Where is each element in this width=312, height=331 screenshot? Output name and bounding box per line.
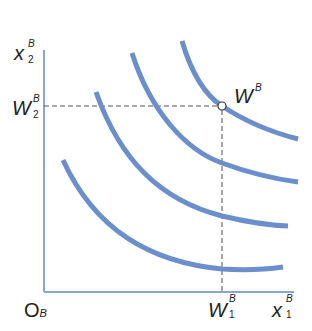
y-tick-label-main: W: [12, 97, 31, 119]
origin-label: OB: [24, 300, 47, 320]
indifference-curve-2: [96, 92, 288, 226]
x-axis-label-sup: B: [286, 294, 293, 304]
endowment-point-label: W B: [234, 86, 253, 106]
x-axis-label-main: x: [272, 299, 282, 321]
origin-label-sub: B: [40, 307, 47, 319]
y-axis-label: x B 2: [14, 43, 24, 63]
y-tick-label-sup: B: [33, 94, 40, 104]
x-tick-label: W B 1: [208, 300, 227, 320]
origin-label-main: O: [24, 299, 40, 321]
endowment-label-main: W: [234, 85, 253, 107]
indifference-curve-diagram: x B 2 W B 2 W B OB W B 1 x B 1: [0, 0, 312, 331]
x-axis-label-sub: 1: [286, 310, 292, 320]
diagram-canvas: [0, 0, 312, 331]
x-tick-label-sup: B: [229, 294, 236, 304]
indifference-curve-3: [132, 53, 298, 182]
x-tick-label-main: W: [208, 299, 227, 321]
y-axis-label-sub: 2: [28, 55, 34, 65]
x-axis-label: x B 1: [272, 300, 282, 320]
y-tick-label-sub: 2: [33, 110, 39, 120]
y-tick-label: W B 2: [12, 98, 31, 118]
y-axis-label-sup: B: [28, 39, 35, 49]
endowment-label-sup: B: [255, 83, 262, 93]
endowment-point-marker: [218, 102, 226, 110]
x-tick-label-sub: 1: [229, 310, 235, 320]
indifference-curve-1: [63, 160, 283, 270]
y-axis-label-main: x: [14, 42, 24, 64]
